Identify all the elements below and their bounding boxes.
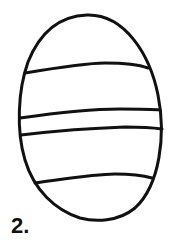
figure-number-label: 2. <box>11 215 29 237</box>
egg-band-2 <box>20 109 160 118</box>
egg-band-1 <box>25 63 148 73</box>
egg-band-4 <box>35 174 152 183</box>
egg-outline <box>19 15 161 220</box>
egg-band-3 <box>21 127 162 135</box>
egg-drawing <box>0 0 175 247</box>
